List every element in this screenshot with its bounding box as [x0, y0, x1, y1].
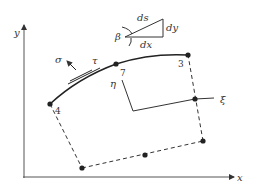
- x-axis-label: x: [237, 172, 243, 183]
- node-bottom-mid: [142, 152, 147, 157]
- element-dashed-edges: [50, 55, 203, 168]
- tau-label: τ: [92, 55, 98, 66]
- isoparametric-element-diagram: y x ξ η 4 7 3 σ τ β ds dy dx: [0, 0, 256, 192]
- eta-label: η: [110, 78, 116, 89]
- node-4: [47, 101, 52, 106]
- local-axes: [122, 80, 214, 111]
- node-7-label: 7: [120, 68, 126, 78]
- node-bottom-right: [200, 138, 205, 143]
- node-right-mid: [192, 96, 197, 101]
- node-3-label: 3: [178, 59, 184, 69]
- boundary-curve: [50, 55, 188, 104]
- node-4-label: 4: [55, 106, 61, 116]
- xi-label: ξ: [220, 94, 226, 105]
- node-7: [113, 61, 118, 66]
- ds-label: ds: [137, 12, 149, 23]
- node-3: [185, 52, 190, 57]
- nodes: [47, 52, 205, 170]
- y-axis-label: y: [13, 27, 20, 38]
- dy-label: dy: [166, 22, 178, 33]
- sigma-label: σ: [55, 54, 63, 65]
- dx-label: dx: [140, 39, 152, 50]
- beta-label: β: [114, 31, 121, 42]
- node-bottom-left: [79, 165, 84, 170]
